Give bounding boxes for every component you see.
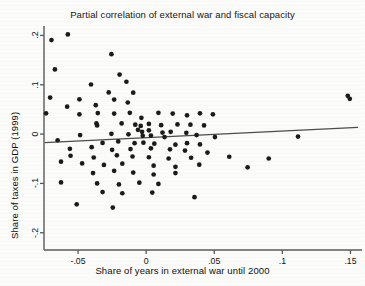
scatter-point xyxy=(48,95,53,100)
scatter-point xyxy=(117,72,122,77)
scatter-point xyxy=(125,100,130,105)
scatter-point xyxy=(136,128,141,133)
scatter-point xyxy=(115,153,120,158)
scatter-point xyxy=(185,113,190,118)
scatter-point xyxy=(140,130,145,135)
scatter-point xyxy=(44,111,49,116)
scatter-point xyxy=(170,111,175,116)
scatter-point xyxy=(53,67,58,72)
scatter-point xyxy=(106,90,111,95)
y-tick-label: 0 xyxy=(30,123,40,145)
scatter-point xyxy=(149,146,154,151)
scatter-point xyxy=(205,150,210,155)
scatter-point xyxy=(59,180,64,185)
y-tick-label: -.2 xyxy=(30,222,40,244)
scatter-point xyxy=(159,123,164,128)
scatter-point xyxy=(55,138,60,143)
scatter-point xyxy=(59,159,64,164)
y-tick-label: -.1 xyxy=(30,172,40,194)
scatter-point xyxy=(100,141,105,146)
scatter-point xyxy=(100,190,105,195)
scatter-point xyxy=(162,135,167,140)
scatter-point xyxy=(160,130,165,135)
x-axis-title: Share of years in external war until 200… xyxy=(0,265,365,276)
scatter-point xyxy=(89,145,94,150)
scatter-point xyxy=(77,97,82,102)
scatter-point xyxy=(188,122,193,127)
scatter-point xyxy=(110,148,115,153)
scatter-point xyxy=(127,111,132,116)
scatter-point xyxy=(65,32,70,37)
scatter-point xyxy=(102,163,107,168)
scatter-point xyxy=(198,111,203,116)
scatter-point xyxy=(266,156,271,161)
scatter-point xyxy=(139,115,144,120)
scatter-point xyxy=(194,133,199,138)
scatter-point xyxy=(202,123,207,128)
scatter-point xyxy=(211,112,216,117)
scatter-point xyxy=(68,147,73,152)
scatter-point xyxy=(213,135,218,140)
scatter-point xyxy=(150,190,155,195)
scatter-point xyxy=(183,148,188,153)
chart-figure: Partial correlation of external war and … xyxy=(0,0,365,286)
y-axis-title: Share of taxes in GDP (1999) xyxy=(9,112,20,239)
scatter-point xyxy=(156,111,161,116)
scatter-point xyxy=(137,180,142,185)
scatter-point xyxy=(124,79,129,84)
scatter-point xyxy=(166,156,171,161)
scatter-point xyxy=(184,130,189,135)
scatter-point xyxy=(175,122,180,127)
scatter-point xyxy=(140,133,145,138)
scatter-point xyxy=(133,122,138,127)
scatter-point xyxy=(147,122,152,127)
scatter-point xyxy=(119,121,124,126)
scatter-point xyxy=(95,111,100,116)
scatter-point xyxy=(149,133,154,138)
scatter-point xyxy=(112,97,117,102)
scatter-point xyxy=(168,130,173,135)
y-tick-label: .1 xyxy=(30,74,40,96)
scatter-point xyxy=(132,141,137,146)
x-tick-label: -.05 xyxy=(58,256,98,266)
scatter-point xyxy=(95,123,100,128)
scatter-plot-canvas xyxy=(0,0,365,286)
regression-fit-line xyxy=(45,127,358,142)
scatter-point xyxy=(141,140,146,145)
scatter-point xyxy=(120,191,125,196)
scatter-point xyxy=(74,202,79,207)
scatter-point xyxy=(93,103,98,108)
scatter-point xyxy=(152,141,157,146)
scatter-point xyxy=(91,171,96,176)
x-tick-label: .15 xyxy=(330,256,365,266)
scatter-point xyxy=(120,161,125,166)
scatter-point xyxy=(117,182,122,187)
scatter-point xyxy=(126,132,131,137)
scatter-point xyxy=(147,128,152,133)
scatter-point xyxy=(151,172,156,177)
scatter-point xyxy=(227,154,232,159)
y-tick-label: .2 xyxy=(30,24,40,46)
scatter-point xyxy=(128,147,133,152)
scatter-point xyxy=(347,96,352,101)
scatter-point xyxy=(131,170,136,175)
scatter-point xyxy=(130,154,135,159)
scatter-point xyxy=(49,38,54,43)
scatter-point xyxy=(151,163,156,168)
scatter-point xyxy=(112,111,117,116)
scatter-point xyxy=(131,90,136,95)
x-tick-label: .05 xyxy=(194,256,234,266)
scatter-point xyxy=(192,195,197,200)
scatter-point xyxy=(245,165,250,170)
scatter-point xyxy=(296,134,301,139)
scatter-point xyxy=(185,141,190,146)
scatter-point xyxy=(91,155,96,160)
scatter-point xyxy=(156,182,161,187)
scatter-point xyxy=(77,112,82,117)
scatter-point xyxy=(109,131,114,136)
scatter-point xyxy=(109,52,114,57)
scatter-point xyxy=(138,124,143,129)
scatter-point xyxy=(65,104,70,109)
scatter-point xyxy=(89,82,94,87)
scatter-point xyxy=(197,162,202,167)
